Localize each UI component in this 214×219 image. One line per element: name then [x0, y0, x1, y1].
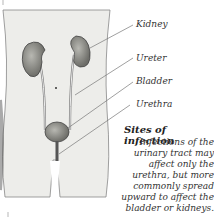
urethra	[56, 141, 59, 161]
bladder	[45, 122, 69, 142]
label-urethra: Urethra	[136, 99, 172, 109]
urinary-tract-diagram: Kidney Ureter Bladder Urethra Sites of i…	[0, 0, 214, 219]
label-bladder: Bladder	[136, 76, 172, 86]
caption-text: Infections of the urinary tract may affe…	[119, 137, 214, 214]
label-ureter: Ureter	[136, 53, 166, 63]
label-kidney: Kidney	[136, 19, 168, 29]
